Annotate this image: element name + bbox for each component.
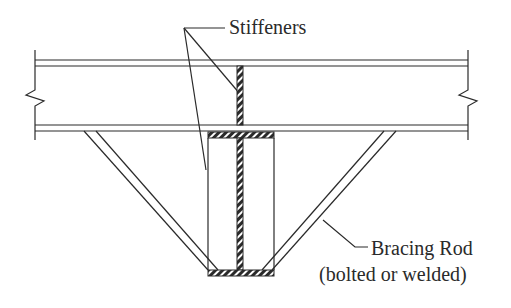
web-stiffener: [237, 66, 243, 125]
bracing-rod-label: Bracing Rod: [371, 238, 473, 258]
bracing-rod-leader: [323, 220, 368, 247]
bracing-rod-note: (bolted or welded): [319, 264, 467, 284]
stiffeners-label: Stiffeners: [229, 17, 306, 37]
left-bracing-rod: [84, 131, 218, 270]
beam: [35, 60, 468, 131]
bottom-plate: [208, 270, 274, 276]
stiffeners-leader: [184, 28, 240, 170]
beam-bracing-diagram: [0, 0, 511, 308]
tee-web: [237, 138, 243, 270]
left-break-line: [26, 50, 44, 140]
right-break-line: [459, 50, 477, 140]
tee-top-flange: [208, 132, 274, 138]
